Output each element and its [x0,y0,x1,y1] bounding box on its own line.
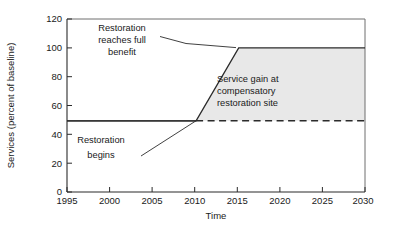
annotation-service-gain-line3: restoration site [217,98,278,108]
y-tick-label-40: 40 [51,129,62,140]
x-axis-title: Time [206,210,227,221]
annotation-begins-line1: Restoration [77,135,125,145]
x-tick-label-2025: 2025 [312,195,333,206]
y-axis-title: Services (percent of baseline) [5,43,16,169]
annotation-service-gain-line2: compensatory [217,86,276,96]
annotation-full-benefit-line2: reaches full [98,35,146,45]
chart-figure: 0 20 40 60 80 100 120 1995 2000 2005 201… [0,0,394,237]
y-tick-label-20: 20 [51,158,62,169]
annotation-service-gain-line1: Service gain at [217,74,279,84]
x-tick-label-2000: 2000 [99,195,120,206]
annotation-begins-line2: begins [87,150,115,160]
annotation-full-benefit-line1: Restoration [98,23,146,33]
x-tick-label-2020: 2020 [269,195,290,206]
x-tick-label-2010: 2010 [184,195,205,206]
y-tick-label-120: 120 [46,13,62,24]
annotation-service-gain: Service gain at compensatory restoration… [217,74,279,108]
x-tick-label-2005: 2005 [142,195,163,206]
x-tick-label-2015: 2015 [227,195,248,206]
x-tick-label-1995: 1995 [56,195,77,206]
services-restoration-line-chart: 0 20 40 60 80 100 120 1995 2000 2005 201… [0,0,394,237]
y-tick-label-60: 60 [51,100,62,111]
x-tick-label-2030: 2030 [352,195,373,206]
y-tick-label-80: 80 [51,71,62,82]
y-tick-label-100: 100 [46,42,62,53]
annotation-full-benefit-line3: benefit [108,47,136,57]
